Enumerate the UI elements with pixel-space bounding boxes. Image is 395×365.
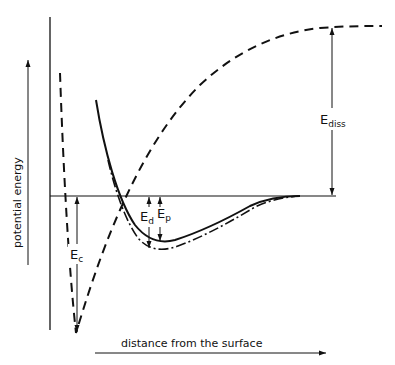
y-axis-label: potential energy xyxy=(11,157,24,248)
dash-dot-curve xyxy=(108,160,300,249)
x-axis-label: distance from the surface xyxy=(121,337,263,350)
dashed-curve xyxy=(60,26,382,333)
potential-energy-diagram: Ediss Ec Ed Ep potential energy distance… xyxy=(0,0,395,365)
solid-curve xyxy=(96,100,300,241)
